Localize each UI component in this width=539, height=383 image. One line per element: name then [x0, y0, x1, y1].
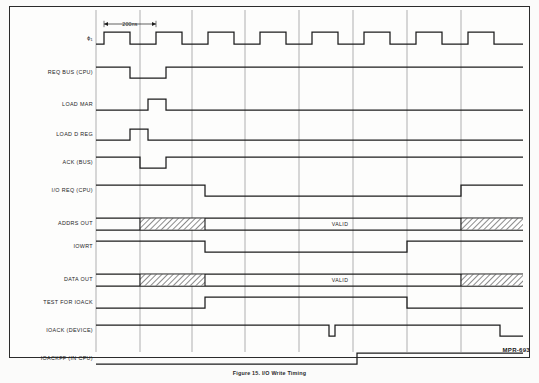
signal-label-load-mar: LOAD MAR [0, 102, 93, 107]
signal-label-load-d-reg: LOAD D REG [0, 132, 93, 137]
hatch-block-1 [461, 219, 523, 230]
tick-arrowhead-1 [152, 22, 156, 26]
signal-label-test-for-ioack: TEST FOR IOACK [0, 300, 93, 305]
waveform-addrs-out [96, 218, 523, 230]
plate-id-label: MPR-693 [503, 347, 530, 353]
gridlines [96, 10, 461, 352]
waveform-data-out [96, 274, 523, 286]
signal-label-ioackff-in-cpu: IOACKFF (IN CPU) [0, 356, 93, 361]
waveform-clock [96, 32, 523, 44]
waveform-load-mar [96, 99, 523, 110]
signal-label-ioack-device: IOACK (DEVICE) [0, 328, 93, 333]
waveform-load-d-reg [96, 129, 523, 140]
hatch-block-0 [140, 219, 205, 230]
waveform-ioackff-in-cpu [96, 353, 523, 364]
waveform-ioack-device [96, 325, 523, 336]
hatch-block-1 [461, 275, 523, 286]
signal-label-clock: ϕ₁ [0, 35, 93, 41]
signal-waveforms [96, 32, 523, 364]
timing-diagram-figure: ϕ₁REQ BUS (CPU)LOAD MARLOAD D REGACK (BU… [0, 0, 539, 383]
signal-label-addrs-out: ADDRS OUT [0, 221, 93, 226]
figure-caption: Figure 15. I/O Write Timing [0, 370, 539, 383]
waveform-iowrt [96, 241, 523, 252]
valid-label-addrs-out: VALID [332, 221, 349, 227]
hatch-block-0 [140, 275, 205, 286]
period-annotation-label: 200ns [122, 21, 137, 27]
waveform-req-bus-cpu [96, 67, 523, 78]
tick-arrowhead-0 [104, 22, 108, 26]
signal-label-iowrt: IOWRT [0, 244, 93, 249]
waveform-ack-bus [96, 157, 523, 168]
signal-label-data-out: DATA OUT [0, 277, 93, 282]
waveform-io-req-cpu [96, 185, 523, 196]
signal-label-ack-bus: ACK (BUS) [0, 160, 93, 165]
valid-label-data-out: VALID [332, 277, 349, 283]
signal-label-req-bus-cpu: REQ BUS (CPU) [0, 70, 93, 75]
signal-label-io-req-cpu: I/O REQ (CPU) [0, 188, 93, 193]
waveform-test-for-ioack [96, 297, 523, 308]
